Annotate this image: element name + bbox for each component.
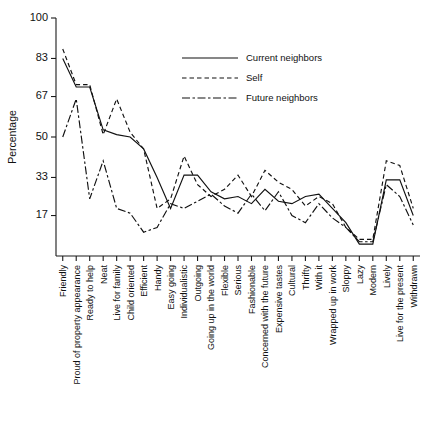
x-tick-label: Easy going: [166, 265, 176, 310]
x-tick-label: Fashionable: [247, 265, 257, 314]
legend-label-current-neighbors: Current neighbors: [246, 52, 322, 63]
x-tick-label: Live for the present: [395, 265, 405, 343]
x-tick-label: Serious: [233, 265, 243, 296]
x-tick-label: Expensive tastes: [274, 265, 284, 334]
x-tick-label: Wrapped up in work: [328, 265, 338, 345]
x-tick-label: Ready to help: [85, 265, 95, 321]
y-tick-label: 33: [36, 170, 48, 182]
legend-label-future-neighbors: Future neighbors: [246, 92, 318, 103]
x-tick-label: Thrifty: [301, 265, 311, 291]
percentage-line-chart: 1733506783100PercentageFriendlyProud of …: [0, 0, 429, 448]
x-tick-label: Modern: [368, 265, 378, 296]
x-tick-label: Lazy: [355, 265, 365, 285]
series-line-self: [63, 49, 414, 239]
x-tick-label: Friendly: [58, 265, 68, 298]
series-line-current-neighbors: [63, 58, 414, 244]
chart-figure: 1733506783100PercentageFriendlyProud of …: [0, 0, 429, 448]
x-tick-label: Neat: [99, 265, 109, 285]
x-tick-label: Flexible: [220, 265, 230, 296]
y-tick-label: 100: [30, 11, 48, 23]
x-tick-label: Proud of property appearance: [72, 265, 82, 385]
x-tick-label: Efficient: [139, 265, 149, 297]
x-tick-label: Cultural: [287, 265, 297, 296]
x-tick-label: Child oriented: [126, 265, 136, 321]
y-tick-label: 67: [36, 89, 48, 101]
x-tick-label: Concerned with the future: [260, 265, 270, 368]
legend-label-self: Self: [246, 72, 263, 83]
y-axis-title: Percentage: [6, 110, 18, 164]
series-line-future-neighbors: [63, 99, 414, 242]
x-tick-label: Individualistic: [179, 265, 189, 319]
x-tick-label: Outgoing: [193, 265, 203, 302]
y-tick-label: 17: [36, 208, 48, 220]
x-tick-label: Handy: [153, 265, 163, 292]
x-tick-label: Live for family: [112, 265, 122, 321]
y-tick-label: 83: [36, 51, 48, 63]
x-tick-label: Withdrawn: [409, 265, 419, 308]
x-tick-label: Lively: [382, 265, 392, 289]
x-tick-label: Sloppy: [341, 265, 351, 293]
x-tick-label: With it: [314, 265, 324, 291]
x-tick-label: Going up in the world: [206, 265, 216, 350]
y-tick-label: 50: [36, 130, 48, 142]
